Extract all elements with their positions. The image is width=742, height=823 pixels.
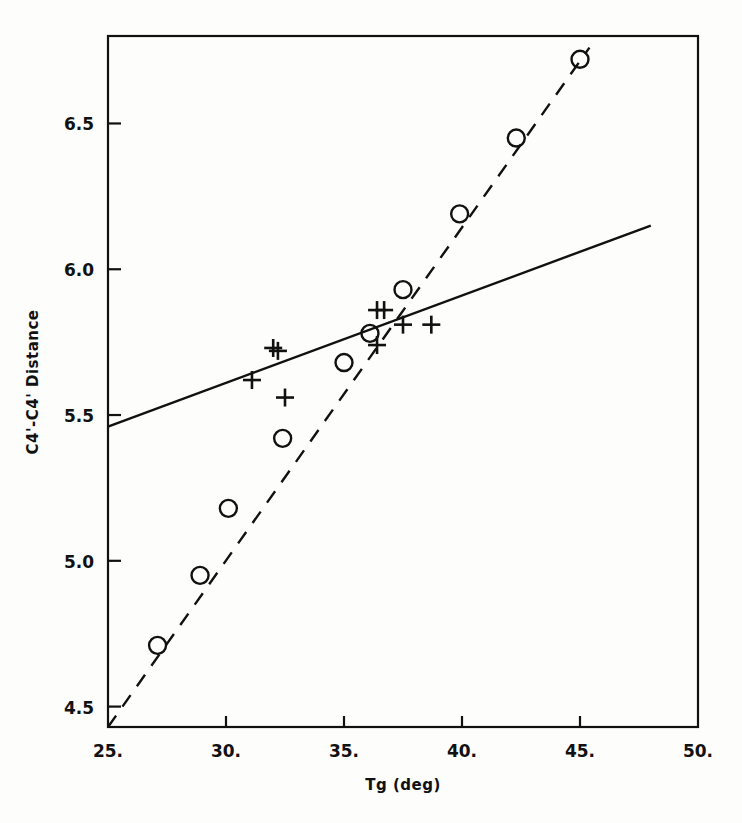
y-tick-label: 5.5 [64,406,94,426]
y-tick-label: 5.0 [64,552,94,572]
data-point-plus [276,389,294,407]
data-point-plus [243,371,261,389]
x-tick-label: 30. [211,741,241,761]
figure-panel: 25.30.35.40.45.50. 4.55.05.56.06.5 Tg (d… [0,0,742,823]
y-axis-tick-labels: 4.55.05.56.06.5 [64,114,94,717]
axes-border [108,36,698,727]
y-tick-label: 6.0 [64,260,94,280]
x-axis-tick-labels: 25.30.35.40.45.50. [93,741,713,761]
data-point-circle [149,637,166,654]
fit-lines [108,48,651,727]
y-tick-label: 6.5 [64,114,94,134]
data-point-plus [264,339,282,357]
y-axis-ticks [108,123,121,706]
plot-frame [108,36,698,727]
dashed-fit-line [108,48,589,727]
data-point-circle [508,130,525,147]
data-point-circle [220,500,237,517]
y-axis-label: C4'-C4' Distance [24,309,42,454]
x-tick-label: 45. [565,741,595,761]
data-point-plus [269,342,287,360]
y-tick-label: 4.5 [64,698,94,718]
data-point-plus [422,316,440,334]
data-markers [149,51,588,654]
scatter-plot: 25.30.35.40.45.50. 4.55.05.56.06.5 Tg (d… [0,0,742,823]
x-tick-label: 35. [329,741,359,761]
data-point-circle [395,281,412,298]
data-point-circle [274,430,291,447]
solid-fit-line [108,226,651,427]
data-point-circle [192,567,209,584]
x-axis-ticks [226,716,580,727]
data-point-circle [336,354,353,371]
x-tick-label: 25. [93,741,123,761]
x-axis-label: Tg (deg) [365,776,441,794]
data-point-circle [572,51,589,68]
x-tick-label: 50. [683,741,713,761]
data-point-circle [451,205,468,222]
x-tick-label: 40. [447,741,477,761]
